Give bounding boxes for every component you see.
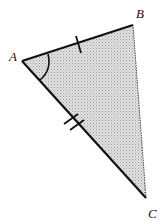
triangle-fill: [22, 25, 146, 198]
vertex-label-A: A: [8, 49, 17, 64]
vertex-label-B: B: [136, 6, 144, 21]
vertex-label-C: C: [148, 206, 157, 221]
triangle-diagram: A B C: [0, 0, 161, 224]
